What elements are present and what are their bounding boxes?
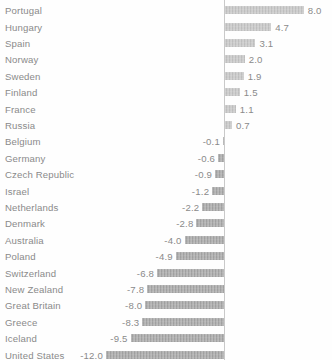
chart-row: Netherlands-2.2 (0, 199, 332, 215)
value-label: -0.1 (203, 136, 220, 147)
value-label: -0.6 (198, 152, 215, 163)
chart-row: United States-12.0 (0, 346, 332, 360)
value-label: 4.7 (275, 21, 289, 32)
chart-row: Portugal8.0 (0, 2, 332, 18)
value-label: 1.9 (248, 70, 262, 81)
value-label: -1.2 (192, 185, 209, 196)
bar-negative (145, 301, 224, 309)
category-label: Poland (5, 251, 36, 262)
category-label: Belgium (5, 136, 41, 147)
value-label: -4.9 (155, 251, 172, 262)
bar-positive (225, 55, 245, 63)
category-label: Czech Republic (5, 169, 74, 180)
category-label: Switzerland (5, 267, 56, 278)
value-label: -8.0 (125, 300, 142, 311)
category-label: New Zealand (5, 283, 63, 294)
chart-row: France1.1 (0, 100, 332, 116)
bar-negative (196, 219, 224, 227)
value-label: -7.8 (127, 283, 144, 294)
bar-negative (157, 269, 224, 277)
chart-row: Iceland-9.5 (0, 330, 332, 346)
value-label: -9.5 (110, 333, 127, 344)
category-label: Hungary (5, 21, 42, 32)
chart-row: Belgium-0.1 (0, 133, 332, 149)
chart-row: Greece-8.3 (0, 314, 332, 330)
bar-negative (215, 170, 224, 178)
category-label: Denmark (5, 218, 45, 229)
category-label: Australia (5, 234, 44, 245)
bar-positive (225, 88, 240, 96)
value-label: -2.2 (182, 201, 199, 212)
chart-row: Australia-4.0 (0, 232, 332, 248)
category-label: France (5, 103, 36, 114)
bar-negative (202, 203, 224, 211)
chart-rows: Portugal8.0Hungary4.7Spain3.1Norway2.0Sw… (0, 0, 332, 360)
category-label: Great Britain (5, 300, 61, 311)
value-label: -6.8 (137, 267, 154, 278)
chart-row: New Zealand-7.8 (0, 281, 332, 297)
bar-negative (212, 187, 224, 195)
category-label: Germany (5, 152, 46, 163)
category-label: Spain (5, 37, 30, 48)
chart-row: Finland1.5 (0, 84, 332, 100)
category-label: Russia (5, 119, 35, 130)
bar-negative (218, 154, 224, 162)
value-label: -12.0 (80, 349, 103, 360)
chart-row: Denmark-2.8 (0, 215, 332, 231)
value-label: 3.1 (259, 37, 273, 48)
chart-row: Switzerland-6.8 (0, 264, 332, 280)
bar-positive (225, 6, 304, 14)
value-label: 2.0 (249, 54, 263, 65)
category-label: Greece (5, 316, 37, 327)
value-label: 1.1 (240, 103, 254, 114)
category-label: Iceland (5, 333, 37, 344)
bar-negative (185, 236, 224, 244)
value-label: -0.9 (195, 169, 212, 180)
category-label: Netherlands (5, 201, 58, 212)
bar-positive (225, 23, 271, 31)
value-label: 1.5 (244, 87, 258, 98)
chart-row: Germany-0.6 (0, 150, 332, 166)
chart-row: Sweden1.9 (0, 68, 332, 84)
value-label: 0.7 (236, 119, 250, 130)
bar-positive (225, 121, 232, 129)
category-label: Portugal (5, 5, 42, 16)
value-label: -8.3 (122, 316, 139, 327)
chart-row: Hungary4.7 (0, 18, 332, 34)
bar-positive (225, 39, 255, 47)
bar-negative (131, 334, 224, 342)
horizontal-bar-chart: Portugal8.0Hungary4.7Spain3.1Norway2.0Sw… (0, 0, 332, 360)
bar-negative (147, 285, 224, 293)
bar-positive (225, 105, 236, 113)
chart-row: Russia0.7 (0, 117, 332, 133)
chart-row: Israel-1.2 (0, 182, 332, 198)
chart-row: Great Britain-8.0 (0, 297, 332, 313)
bar-negative (176, 252, 224, 260)
chart-row: Czech Republic-0.9 (0, 166, 332, 182)
value-label: -4.0 (164, 234, 181, 245)
value-label: -2.8 (176, 218, 193, 229)
category-label: Finland (5, 87, 38, 98)
category-label: Sweden (5, 70, 41, 81)
chart-row: Poland-4.9 (0, 248, 332, 264)
category-label: United States (5, 349, 65, 360)
chart-row: Norway2.0 (0, 51, 332, 67)
chart-row: Spain3.1 (0, 35, 332, 51)
category-label: Norway (5, 54, 38, 65)
value-label: 8.0 (308, 5, 322, 16)
bar-negative (106, 351, 224, 359)
bar-positive (225, 72, 244, 80)
bar-negative (142, 318, 224, 326)
category-label: Israel (5, 185, 29, 196)
bar-negative (223, 137, 224, 145)
